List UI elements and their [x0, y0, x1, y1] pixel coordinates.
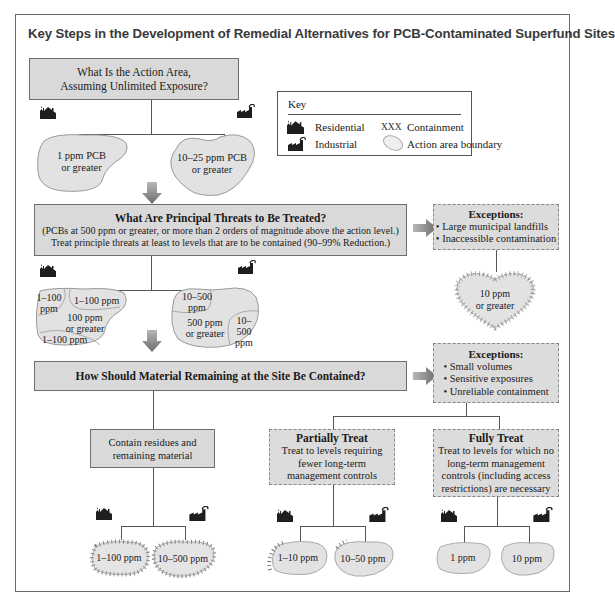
zone-label: or greater: [180, 328, 230, 339]
key-heading: Key: [288, 98, 306, 110]
contain-line1: Contain residues and: [108, 436, 196, 449]
contain-industrial-area: 10–500 ppm: [150, 540, 216, 578]
exception-item: • Sensitive exposures: [443, 373, 548, 386]
connector: [153, 468, 154, 526]
zone-label: 100 ppm: [60, 312, 110, 323]
residential-house-icon: [96, 506, 112, 520]
partially-treat-box: Partially Treat Treat to levels requirin…: [269, 429, 395, 485]
full-line1: Treat to levels for which no: [438, 445, 554, 458]
zone-label: ppm: [182, 302, 212, 313]
exception-item: • Inaccessible contamination: [436, 233, 556, 246]
zone-label: 10–500: [230, 315, 258, 337]
connector: [333, 485, 334, 526]
residential-house-icon: [277, 508, 293, 522]
full-industrial-area: 10 ppm: [498, 541, 556, 577]
zone-label: ppm: [36, 303, 62, 314]
exception-area-line1: 10 ppm: [476, 288, 515, 300]
exception-item: • Unreliable containment: [443, 386, 548, 399]
residential-house-icon: [441, 508, 457, 522]
connector: [153, 391, 154, 429]
step3-exceptions-box: Exceptions: • Small volumes • Sensitive …: [433, 343, 559, 403]
zone-label: 500 ppm: [180, 317, 230, 328]
connector: [333, 416, 500, 417]
area-label: 10–50 ppm: [340, 553, 385, 565]
step2-principal-threats-box: What Are Principal Threats to Be Treated…: [34, 204, 407, 256]
industrial-factory-icon: [369, 507, 389, 522]
full-line4: restrictions) are necessary: [441, 483, 550, 496]
diagram-title: Key Steps in the Development of Remedial…: [28, 26, 615, 41]
residential-house-icon: [40, 263, 56, 277]
residential-house-icon: [40, 105, 56, 119]
connector: [121, 526, 186, 527]
connector: [464, 526, 530, 527]
exceptions-heading: Exceptions:: [469, 348, 524, 361]
step2-line2: (PCBs at 500 ppm or greater, or more tha…: [42, 225, 399, 237]
exception-item: • Large municipal landfills: [436, 221, 556, 234]
residential-area-line2: or greater: [57, 162, 106, 174]
exception-area-line2: or greater: [476, 300, 515, 312]
industrial-threat-zones: 10–500 ppm 500 ppm or greater 10–500 ppm: [168, 285, 260, 349]
step1-line2: Assuming Unlimited Exposure?: [60, 79, 208, 93]
connector: [496, 250, 497, 272]
residential-area-line1: 1 ppm PCB: [57, 150, 106, 162]
partial-line3: management controls: [287, 470, 377, 483]
full-line3: controls (including access: [441, 470, 550, 483]
connector: [121, 526, 122, 540]
full-residential-area: 1 ppm: [434, 541, 492, 575]
step3-heading: How Should Material Remaining at the Sit…: [75, 370, 365, 383]
key-divider: [288, 114, 461, 115]
residential-action-area: 1 ppm PCB or greater: [34, 131, 129, 193]
residential-house-icon: [287, 119, 304, 134]
partial-heading: Partially Treat: [296, 431, 368, 445]
residential-threat-zones: 1–100 ppm 1–100 ppm 100 ppm or greater 1…: [34, 285, 129, 347]
industrial-factory-icon: [238, 260, 256, 274]
key-containment-label: Containment: [407, 121, 464, 133]
zone-label: ppm: [230, 337, 258, 348]
zone-label: or greater: [60, 323, 110, 334]
area-label: 1–10 ppm: [278, 552, 318, 564]
connector: [300, 526, 366, 527]
legend-key: Key Residential XXX Containment Industri…: [277, 91, 472, 156]
zone-label: 1–100 ppm: [42, 334, 87, 345]
industrial-area-line2: or greater: [177, 164, 247, 176]
industrial-factory-icon: [287, 137, 307, 151]
full-line2: long-term management: [447, 458, 545, 471]
containment-xxx-icon: XXX: [381, 122, 402, 132]
connector: [497, 497, 498, 526]
exception-contained-area: 10 ppm or greater: [453, 270, 537, 330]
step2-line3: Treat principle threats at least to leve…: [51, 237, 390, 249]
connector: [466, 403, 467, 416]
step1-line1: What Is the Action Area,: [77, 65, 191, 79]
connector: [499, 416, 500, 429]
action-area-boundary-icon: [382, 135, 404, 151]
key-industrial-label: Industrial: [315, 138, 357, 150]
zone-label: 1–100 ppm: [74, 295, 119, 306]
fully-treat-box: Fully Treat Treat to levels for which no…: [433, 429, 559, 497]
partial-line1: Treat to levels requiring: [282, 445, 383, 458]
zone-label: 10–500: [182, 291, 212, 302]
zone-label: 1–100: [36, 292, 62, 303]
area-label: 1 ppm: [450, 552, 475, 564]
area-label: 10–500 ppm: [158, 553, 208, 565]
partial-residential-area: 1–10 ppm: [267, 540, 329, 576]
down-arrow-icon: [142, 330, 162, 352]
key-action-area-label: Action area boundary: [407, 138, 502, 150]
connector: [333, 416, 334, 429]
step1-action-area-box: What Is the Action Area, Assuming Unlimi…: [29, 58, 239, 100]
step2-heading: What Are Principal Threats to Be Treated…: [115, 211, 326, 225]
connector: [185, 526, 186, 540]
industrial-factory-icon: [189, 506, 209, 521]
exception-item: • Small volumes: [443, 361, 548, 374]
industrial-area-line1: 10–25 ppm PCB: [177, 152, 247, 164]
industrial-factory-icon: [237, 104, 255, 118]
contain-residential-area: 1–100 ppm: [88, 540, 150, 576]
area-label: 1–100 ppm: [96, 552, 141, 564]
connector: [151, 100, 152, 134]
industrial-factory-icon: [533, 507, 553, 522]
contain-line2: remaining material: [113, 449, 193, 462]
exceptions-heading: Exceptions:: [469, 208, 524, 221]
connector: [151, 256, 152, 291]
full-heading: Fully Treat: [469, 431, 524, 445]
partial-line2: fewer long-term: [298, 458, 366, 471]
partial-industrial-area: 10–50 ppm: [331, 540, 395, 578]
